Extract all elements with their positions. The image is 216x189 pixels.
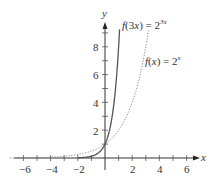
chart-canvas [0,0,216,189]
x-tick-label: −6 [19,163,31,175]
x-tick-label: −2 [73,163,85,175]
x-tick-label: 4 [157,163,163,175]
y-tick-label: 2 [93,125,99,137]
legend-label-f-3x: f(3x) = 23x [122,18,167,31]
x-tick-label: −4 [46,163,58,175]
x-axis-arrow-icon [193,156,200,161]
x-tick-label: 6 [184,163,190,175]
y-tick-label: 4 [93,97,99,109]
x-tick-label: 2 [130,163,136,175]
y-axis-label: y [102,7,107,19]
x-axis-label: x [201,151,206,163]
legend-label-f-x: f(x) = 2x [145,54,181,67]
y-tick-label: 6 [93,69,99,81]
y-tick-label: 8 [93,41,99,53]
y-axis-arrow-icon [103,22,108,29]
curve-f-x [10,30,149,158]
